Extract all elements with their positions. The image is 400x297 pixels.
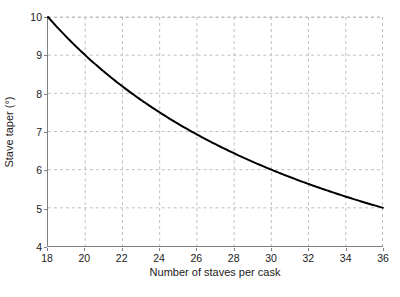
x-tick-label: 34 [340, 252, 352, 264]
x-tick-label: 30 [265, 252, 277, 264]
y-tick-label: 7 [36, 126, 42, 138]
x-tick-label: 22 [116, 252, 128, 264]
y-tick-label: 5 [36, 203, 42, 215]
data-curve [48, 17, 383, 208]
x-tick-mark [122, 248, 123, 251]
x-tick-mark [234, 248, 235, 251]
x-tick-label: 18 [41, 252, 53, 264]
y-tick-mark [44, 55, 47, 56]
x-tick-label: 28 [228, 252, 240, 264]
x-tick-label: 32 [302, 252, 314, 264]
x-tick-label: 26 [190, 252, 202, 264]
y-tick-label: 8 [36, 88, 42, 100]
x-tick-mark [196, 248, 197, 251]
y-tick-mark [44, 170, 47, 171]
x-tick-mark [308, 248, 309, 251]
plot-area [47, 17, 383, 247]
y-tick-label: 10 [30, 11, 42, 23]
y-tick-mark [44, 209, 47, 210]
x-axis-title: Number of staves per cask [150, 266, 281, 278]
x-tick-label: 24 [153, 252, 165, 264]
x-tick-mark [383, 248, 384, 251]
y-tick-label: 6 [36, 164, 42, 176]
y-tick-mark [44, 132, 47, 133]
y-tick-mark [44, 17, 47, 18]
x-tick-label: 36 [377, 252, 389, 264]
y-tick-label: 9 [36, 49, 42, 61]
x-tick-mark [159, 248, 160, 251]
x-tick-mark [84, 248, 85, 251]
y-tick-mark [44, 94, 47, 95]
x-tick-mark [271, 248, 272, 251]
y-axis-title: Stave taper (°) [3, 96, 15, 167]
x-tick-mark [346, 248, 347, 251]
x-tick-mark [47, 248, 48, 251]
x-tick-label: 20 [78, 252, 90, 264]
chart-figure: 45678910 18202224262830323436 Stave tape… [0, 0, 400, 297]
data-curve-layer [48, 17, 383, 246]
